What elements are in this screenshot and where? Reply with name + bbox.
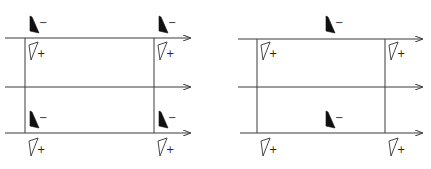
left-panel: −−−−++++ xyxy=(5,16,190,156)
plus-sign-label: + xyxy=(397,48,405,59)
filled-wedge-icon xyxy=(159,16,168,33)
plus-sign-label: + xyxy=(166,144,174,155)
plus-sign-label: + xyxy=(397,144,405,155)
plus-sign-label: + xyxy=(269,144,277,155)
minus-sign-label: − xyxy=(335,17,343,28)
filled-wedge-icon xyxy=(326,16,335,33)
two-panel-line-diagram: −−−−++++ −−++++ xyxy=(0,0,431,169)
minus-sign-label: − xyxy=(39,17,47,28)
right-panel: −−++++ xyxy=(238,16,422,156)
diagram-canvas: −−−−++++ −−++++ xyxy=(0,0,431,169)
plus-sign-label: + xyxy=(166,48,174,59)
minus-sign-label: − xyxy=(168,17,176,28)
filled-wedge-icon xyxy=(159,111,168,128)
plus-sign-label: + xyxy=(269,48,277,59)
minus-sign-label: − xyxy=(168,112,176,123)
minus-sign-label: − xyxy=(39,112,47,123)
filled-wedge-icon xyxy=(326,111,335,128)
plus-sign-label: + xyxy=(37,48,45,59)
plus-sign-label: + xyxy=(37,144,45,155)
filled-wedge-icon xyxy=(30,111,39,128)
filled-wedge-icon xyxy=(30,16,39,33)
minus-sign-label: − xyxy=(335,112,343,123)
